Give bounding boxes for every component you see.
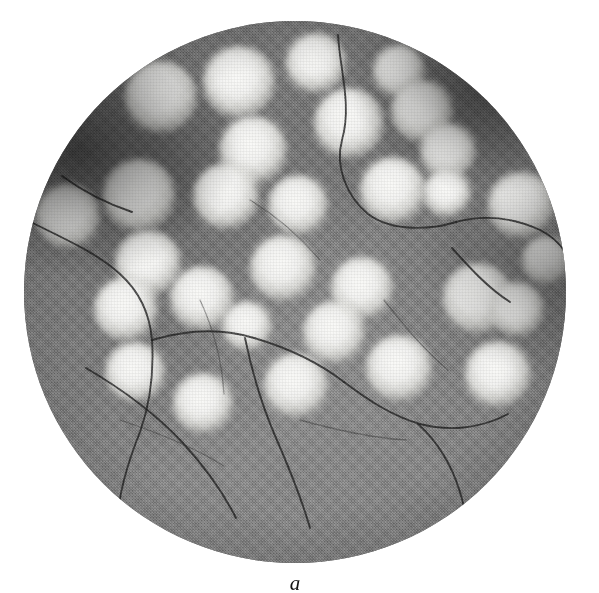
colony-particle xyxy=(360,157,426,223)
colony-particle xyxy=(125,61,197,133)
colony-particle xyxy=(203,46,275,118)
crack-line xyxy=(118,340,153,514)
colony-particle xyxy=(331,257,393,319)
colony-particle xyxy=(268,175,328,235)
colony-particle xyxy=(443,263,513,333)
colony-particle xyxy=(490,282,544,336)
field-vignette xyxy=(24,21,566,563)
crack-line xyxy=(456,218,565,252)
colony-particle xyxy=(488,172,554,238)
culture-medium-background xyxy=(24,21,566,563)
colony-particle xyxy=(286,33,346,93)
halftone-texture xyxy=(24,21,566,563)
crack-line-faint xyxy=(384,300,448,370)
colony-particle xyxy=(170,266,234,330)
colony-particle xyxy=(391,80,453,142)
colony-particle xyxy=(115,230,181,296)
colony-particle xyxy=(423,169,471,217)
colony-particle xyxy=(173,373,233,433)
crack-line xyxy=(338,35,456,228)
crack-line xyxy=(245,338,310,528)
figure-panel: a xyxy=(0,0,599,593)
crack-line xyxy=(344,382,508,428)
crack-line-faint xyxy=(300,420,406,440)
colony-particle xyxy=(314,88,384,158)
film-grain-texture xyxy=(24,21,566,563)
colony-particle xyxy=(420,123,476,179)
colony-particle xyxy=(36,184,100,248)
colony-particle xyxy=(94,277,158,341)
crack-boundary-network xyxy=(24,21,566,563)
colony-particle xyxy=(222,301,272,351)
crack-line-faint xyxy=(120,420,224,466)
crack-line xyxy=(31,222,152,340)
crack-line-faint xyxy=(200,300,224,394)
colony-particle xyxy=(366,335,432,401)
colony-particle xyxy=(303,301,365,363)
colony-particle xyxy=(264,353,328,417)
micrograph-circular-field xyxy=(24,21,566,563)
crack-line xyxy=(452,248,510,302)
colony-particle xyxy=(465,341,531,407)
crack-line xyxy=(418,424,468,540)
colony-particle xyxy=(193,163,259,229)
crack-line xyxy=(86,368,236,518)
colony-particle xyxy=(250,235,316,301)
colony-particle xyxy=(105,342,165,402)
colony-particle-layer xyxy=(24,21,566,563)
colony-particle xyxy=(373,45,425,97)
colony-particle xyxy=(103,159,175,231)
crack-line-faint xyxy=(250,200,320,260)
crack-line xyxy=(62,176,132,212)
colony-particle xyxy=(219,116,287,184)
crack-line xyxy=(152,331,344,382)
figure-caption-label: a xyxy=(235,573,355,593)
colony-particle xyxy=(522,236,566,284)
